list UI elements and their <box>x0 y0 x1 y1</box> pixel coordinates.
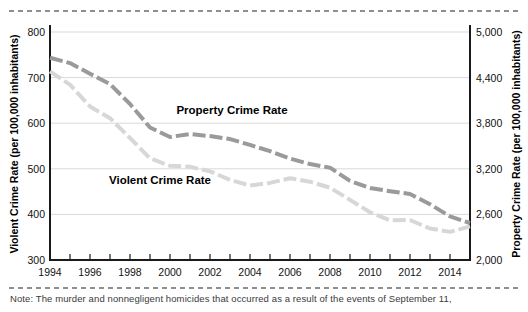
right-axis-tick-label: 2,600 <box>476 207 520 221</box>
x-axis-tick-label: 2006 <box>270 265 310 279</box>
x-axis-tick-label: 2002 <box>190 265 230 279</box>
x-axis-tick-label: 1996 <box>70 265 110 279</box>
right-axis-tick-label: 3,800 <box>476 116 520 130</box>
left-axis-tick-label: 400 <box>11 207 45 221</box>
right-axis-tick-label: 5,000 <box>476 25 520 39</box>
right-axis-tick-label: 3,200 <box>476 162 520 176</box>
violent-crime-series-label: Violent Crime Rate <box>109 174 211 186</box>
property-crime-line <box>50 58 470 223</box>
x-axis-tick-label: 2000 <box>150 265 190 279</box>
right-axis-tick-label: 2,000 <box>476 253 520 267</box>
bottom-dashed-separator <box>9 287 519 289</box>
x-axis-tick-label: 2012 <box>390 265 430 279</box>
right-axis-title: Property Crime Rate (per 100,000 inhabit… <box>510 30 522 258</box>
x-axis-tick-label: 2010 <box>350 265 390 279</box>
x-axis-tick-label: 2004 <box>230 265 270 279</box>
left-axis-tick-label: 700 <box>11 71 45 85</box>
right-axis-tick-label: 4,400 <box>476 71 520 85</box>
left-axis-tick-label: 600 <box>11 116 45 130</box>
property-crime-series-label: Property Crime Rate <box>176 104 287 116</box>
crime-rate-figure: Violent Crime Rate (per 100,000 inhabita… <box>0 0 528 312</box>
left-axis-tick-label: 800 <box>11 25 45 39</box>
left-axis-tick-label: 500 <box>11 162 45 176</box>
x-axis-tick-label: 1994 <box>30 265 70 279</box>
figure-note-text: Note: The murder and nonnegligent homici… <box>10 293 524 304</box>
x-axis-tick-label: 2014 <box>430 265 470 279</box>
x-axis-tick-label: 1998 <box>110 265 150 279</box>
violent-crime-line <box>50 71 470 232</box>
x-axis-tick-label: 2008 <box>310 265 350 279</box>
